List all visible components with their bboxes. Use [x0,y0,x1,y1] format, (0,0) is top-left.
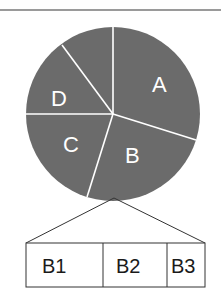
segment-label-b2: B2 [116,255,140,277]
slice-label-d: D [51,86,67,111]
segment-label-b3: B3 [171,255,195,277]
segment-label-b1: B1 [42,255,66,277]
slice-label-c: C [63,132,79,157]
slice-label-b: B [125,143,140,168]
slice-label-a: A [152,72,167,97]
pie-of-bar-diagram: A B C D B1 B2 B3 [0,0,221,305]
connector-lines [26,198,205,243]
